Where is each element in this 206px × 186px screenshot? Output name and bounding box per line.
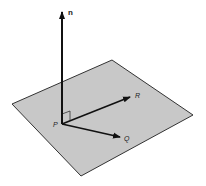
plane <box>12 60 193 176</box>
diagram-canvas: n P R Q <box>0 0 206 186</box>
label-n: n <box>68 8 73 17</box>
label-Q: Q <box>124 135 130 143</box>
label-P: P <box>53 121 58 128</box>
label-R: R <box>135 92 140 99</box>
normal-vector-diagram: n P R Q <box>0 0 206 186</box>
